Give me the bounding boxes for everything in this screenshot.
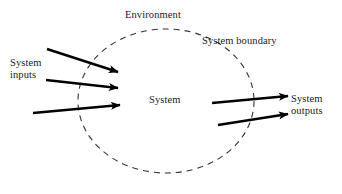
input-arrow-3: [33, 105, 120, 113]
system-boundary-label: System boundary: [202, 35, 277, 47]
system-context-diagram: Environment System boundary System input…: [0, 0, 342, 194]
system-inputs-label: System inputs: [10, 57, 42, 81]
system-outputs-label: System outputs: [291, 93, 323, 117]
output-arrow-1: [212, 96, 288, 103]
input-arrow-1: [47, 49, 118, 72]
output-arrow-group: [212, 96, 288, 125]
system-inputs-label-line2: inputs: [10, 69, 42, 81]
output-arrow-2: [218, 114, 288, 125]
system-outputs-label-line1: System: [291, 93, 323, 105]
system-outputs-label-line2: outputs: [291, 105, 323, 117]
input-arrow-group: [33, 49, 120, 113]
environment-label: Environment: [125, 9, 181, 21]
system-inputs-label-line1: System: [10, 57, 42, 69]
input-arrow-2: [46, 80, 118, 88]
system-label: System: [149, 94, 181, 106]
